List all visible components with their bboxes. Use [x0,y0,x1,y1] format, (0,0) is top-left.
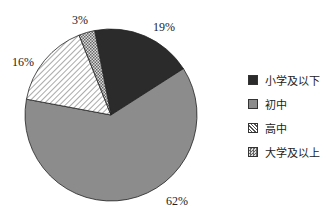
slice-label-primary: 19% [153,20,175,35]
slice-label-high: 16% [12,55,34,70]
slice-label-university: 3% [72,13,88,28]
legend-item-primary: 小学及以下 [248,68,320,92]
legend-item-university: 大学及以上 [248,140,320,164]
legend-label: 大学及以上 [265,144,320,160]
legend-label: 初中 [265,96,287,112]
swatch-hatch-icon [248,123,258,133]
swatch-gray-icon [248,99,258,109]
legend-label: 高中 [265,120,287,136]
legend-item-middle: 初中 [248,92,320,116]
slice-label-middle: 62% [166,194,188,209]
legend-item-high: 高中 [248,116,320,140]
legend-label: 小学及以下 [265,72,320,88]
legend: 小学及以下 初中 高中 大学及以上 [248,68,320,164]
swatch-crosshatch-icon [248,147,258,157]
swatch-dark-icon [248,75,258,85]
